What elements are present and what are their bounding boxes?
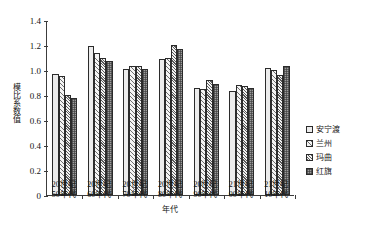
x-axis-tick-label: 20世纪 50年代	[46, 180, 81, 200]
bar-group	[229, 21, 254, 195]
y-axis-tick-label: 0	[11, 192, 41, 201]
legend-item[interactable]: 玛曲	[306, 150, 382, 164]
legend-item[interactable]: 红旗	[306, 164, 382, 178]
y-axis-tick-label: 0.6	[11, 117, 41, 126]
y-axis-tick-label: 0.8	[11, 92, 41, 101]
bar	[248, 88, 254, 196]
legend-item[interactable]: 兰州	[306, 136, 382, 150]
legend-item-label: 玛曲	[316, 153, 332, 162]
x-axis-title: 年代	[46, 205, 294, 215]
x-axis-tick-mark	[295, 195, 296, 199]
legend-swatch-icon	[306, 126, 313, 133]
legend-swatch-icon	[306, 140, 313, 147]
bar	[213, 84, 219, 195]
legend-item[interactable]: 安宁渡	[306, 122, 382, 136]
x-axis-tick-label: 20世纪 80年代	[152, 180, 187, 200]
legend-item-label: 红旗	[316, 167, 332, 176]
legend-item-label: 安宁渡	[316, 125, 340, 134]
y-axis-tick-label: 1.4	[11, 17, 41, 26]
x-axis-tick-label: 21世纪 00年代	[223, 180, 258, 200]
bar-group	[265, 21, 290, 195]
bar-group	[88, 21, 113, 195]
bars-layer	[47, 21, 294, 195]
bar-group	[52, 21, 77, 195]
bar	[177, 49, 183, 195]
y-axis-tick-label: 0.2	[11, 167, 41, 176]
bar-chart: 模比系数值 00.20.40.60.81.01.21.4 20世纪 50年代20…	[0, 0, 387, 252]
legend-item-label: 兰州	[316, 139, 332, 148]
plot-area: 00.20.40.60.81.01.21.4	[46, 21, 294, 196]
x-axis-tick-label: 20世纪 60年代	[81, 180, 116, 200]
legend-swatch-icon	[306, 168, 313, 175]
chart-legend: 安宁渡兰州玛曲红旗	[306, 122, 382, 178]
bar	[283, 66, 289, 195]
bar-group	[159, 21, 184, 195]
x-axis-tick-label: 20世纪 90年代	[188, 180, 223, 200]
legend-swatch-icon	[306, 154, 313, 161]
x-axis-tick-label: 20世纪 70年代	[117, 180, 152, 200]
x-axis-tick-label: 21世纪 10年代	[259, 180, 294, 200]
bar-group	[194, 21, 219, 195]
bar-group	[123, 21, 148, 195]
bar	[142, 69, 148, 195]
y-axis-tick-label: 1.2	[11, 42, 41, 51]
bar	[106, 61, 112, 195]
y-axis-tick-label: 1.0	[11, 67, 41, 76]
y-axis-tick-label: 0.4	[11, 142, 41, 151]
